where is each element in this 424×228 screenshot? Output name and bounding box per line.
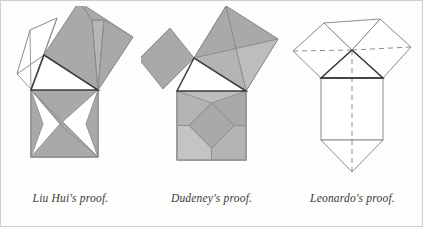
figure-liu-hui: Liu Hui's proof. xyxy=(0,0,141,228)
caption-leonardo: Leonardo's proof. xyxy=(282,192,423,204)
figure-dudeney: Dudeney's proof. xyxy=(141,0,282,228)
caption-liu-hui: Liu Hui's proof. xyxy=(0,192,141,204)
figure-page: Liu Hui's proof. xyxy=(0,0,424,228)
leonardo-diagram xyxy=(282,6,423,178)
caption-dudeney: Dudeney's proof. xyxy=(141,192,282,204)
liu-hui-diagram xyxy=(0,6,141,178)
liu-hui-small-square-cut-3 xyxy=(17,74,31,89)
figure-leonardo: Leonardo's proof. xyxy=(282,0,423,228)
dudeney-diagram xyxy=(141,6,282,178)
